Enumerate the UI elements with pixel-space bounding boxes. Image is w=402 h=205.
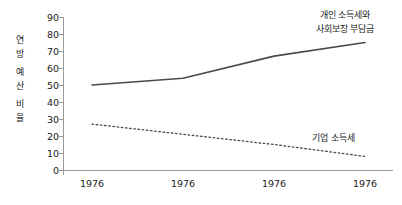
series-label-primary-line2: 사회보장 부담금	[292, 22, 398, 36]
series-label-primary-line1: 개인 소득세와	[292, 8, 398, 22]
series-label-secondary: 기업 소득세	[312, 132, 355, 145]
chart-figure: 연 방 예 산 비 율 0102030405060708090 19761976…	[0, 0, 402, 205]
series-line-primary	[92, 43, 365, 86]
series-label-primary: 개인 소득세와 사회보장 부담금	[292, 8, 398, 36]
